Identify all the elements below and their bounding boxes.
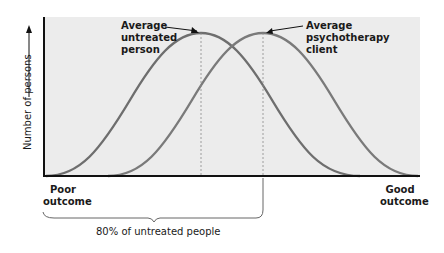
brace-label: 80% of untreated people <box>96 226 216 238</box>
therapy-annotation: Average psychotherapy client <box>306 20 390 56</box>
good-outcome-label: Good outcome <box>380 184 420 208</box>
y-axis-label: Number of persons <box>22 54 33 150</box>
poor-outcome-label: Poor outcome <box>43 184 83 208</box>
y-axis-arrow-icon <box>26 25 32 33</box>
untreated-annotation: Average untreated person <box>121 20 177 56</box>
